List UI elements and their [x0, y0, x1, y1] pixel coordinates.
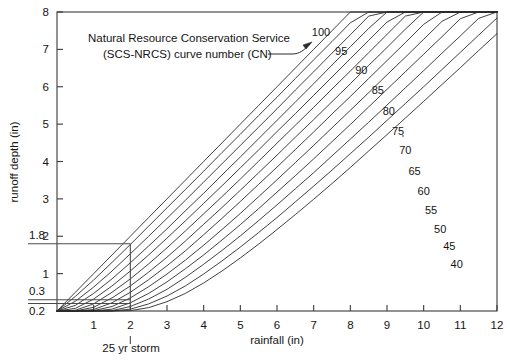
x-tick-label-11: 11 [454, 319, 466, 331]
curve-label-60: 60 [418, 185, 430, 197]
curve-label-85: 85 [372, 84, 384, 96]
x-tick-label-12: 12 [491, 319, 504, 331]
curve-label-55: 55 [425, 204, 437, 216]
curve-label-95: 95 [335, 45, 347, 57]
x-tick-label-1: 1 [90, 319, 96, 331]
y-tick-label-1: 1 [43, 268, 49, 280]
y-axis-title: runoff depth (in) [8, 121, 20, 202]
curve-label-90: 90 [355, 64, 367, 76]
chart-canvas: 123456789101112 12345678 1.80.30.2 10095… [0, 0, 510, 363]
print-speck [402, 135, 404, 137]
x-tick-label-3: 3 [164, 319, 170, 331]
y-tick-label-5: 5 [43, 118, 49, 130]
y-tick-label-3: 3 [43, 193, 49, 205]
curve-label-40: 40 [451, 258, 463, 270]
curve-label-75: 75 [392, 125, 404, 137]
y-tick-label-7: 7 [43, 43, 49, 55]
curve-label-50: 50 [434, 223, 446, 235]
x-axis-title: rainfall (in) [250, 334, 304, 346]
x-tick-label-4: 4 [200, 319, 207, 331]
storm-annotation-label: 25 yr storm [102, 342, 160, 354]
annotation-line-2: (SCS-NRCS) curve number (CN) [103, 48, 272, 60]
curve-label-45: 45 [443, 240, 455, 252]
x-tick-label-7: 7 [310, 319, 316, 331]
x-tick-label-5: 5 [237, 319, 243, 331]
curve-label-100: 100 [312, 26, 330, 38]
guide-label-1.8: 1.8 [29, 229, 45, 241]
scs-nrcs-runoff-chart: 123456789101112 12345678 1.80.30.2 10095… [0, 0, 510, 363]
curve-label-80: 80 [383, 105, 395, 117]
y-tick-label-4: 4 [43, 156, 50, 168]
x-tick-label-9: 9 [384, 319, 390, 331]
x-tick-label-2: 2 [127, 319, 133, 331]
x-tick-label-6: 6 [274, 319, 280, 331]
y-tick-label-6: 6 [43, 81, 49, 93]
y-tick-label-8: 8 [43, 6, 49, 18]
x-tick-label-10: 10 [417, 319, 430, 331]
curve-label-65: 65 [408, 165, 420, 177]
guide-label-0.2: 0.2 [29, 305, 45, 317]
annotation-line-1: Natural Resource Conservation Service [88, 32, 290, 44]
x-tick-label-8: 8 [347, 319, 353, 331]
curve-label-70: 70 [399, 144, 411, 156]
guide-label-0.3: 0.3 [29, 285, 45, 297]
